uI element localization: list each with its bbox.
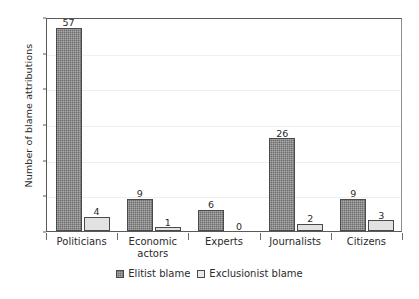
bar-group: 91 [118, 19, 189, 231]
bar-exclusionist[interactable]: 2 [297, 224, 323, 231]
legend-label-elitist: Elitist blame [128, 268, 190, 279]
bar-exclusionist[interactable]: 1 [155, 227, 181, 231]
bar-value-label: 26 [276, 129, 288, 139]
y-axis-title: Number of blame attributions [23, 16, 34, 216]
bar-elitist[interactable]: 6 [198, 210, 224, 231]
bar-value-label: 6 [208, 200, 214, 210]
legend-swatch-icon-exclusionist [197, 270, 205, 278]
bar-value-label: 9 [137, 189, 143, 199]
bar-value-label: 1 [165, 218, 171, 228]
bar-value-label: 3 [378, 211, 384, 221]
bar-value-label: 4 [94, 207, 100, 217]
x-axis-group-separator [331, 233, 332, 240]
bar-value-label: 0 [236, 222, 242, 232]
bar-group: 60 [189, 19, 260, 231]
legend: Elitist blame Exclusionist blame [0, 268, 419, 279]
x-axis-group-separator [188, 233, 189, 240]
bar-elitist[interactable]: 57 [56, 28, 82, 231]
bar-value-label: 9 [350, 189, 356, 199]
x-axis-end-tick [402, 233, 403, 240]
legend-item-exclusionist-blame[interactable]: Exclusionist blame [197, 268, 302, 279]
x-axis-group-separator [260, 233, 261, 240]
bar-elitist[interactable]: 9 [127, 199, 153, 231]
bar-elitist[interactable]: 26 [269, 138, 295, 231]
legend-label-exclusionist: Exclusionist blame [209, 268, 302, 279]
bar-elitist[interactable]: 9 [340, 199, 366, 231]
bar-value-label: 57 [63, 18, 75, 28]
bar-exclusionist[interactable]: 4 [84, 217, 110, 231]
bar-value-label: 2 [307, 214, 313, 224]
plot-area: 574916026293 [46, 18, 402, 232]
bar-chart: Number of blame attributions 01020304050… [0, 0, 419, 299]
legend-swatch-icon-elitist [116, 270, 124, 278]
bar-exclusionist[interactable]: 3 [368, 220, 394, 231]
bar-group: 574 [47, 19, 118, 231]
legend-item-elitist-blame[interactable]: Elitist blame [116, 268, 190, 279]
x-axis-group-separator [117, 233, 118, 240]
x-axis-end-tick [46, 233, 47, 240]
bar-group: 262 [261, 19, 332, 231]
bar-group: 93 [332, 19, 403, 231]
